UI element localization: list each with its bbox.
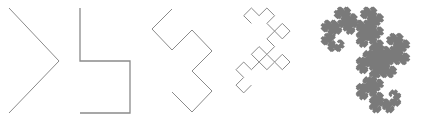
dragon-curve-iteration-5 xyxy=(236,8,290,93)
dragon-curve-iteration-1 xyxy=(9,8,59,113)
dragon-curve-iteration-high xyxy=(322,8,409,112)
dragon-curve-iteration-2 xyxy=(80,8,130,113)
dragon-curve-figure xyxy=(0,0,446,121)
dragon-curve-iteration-3 xyxy=(152,9,212,112)
